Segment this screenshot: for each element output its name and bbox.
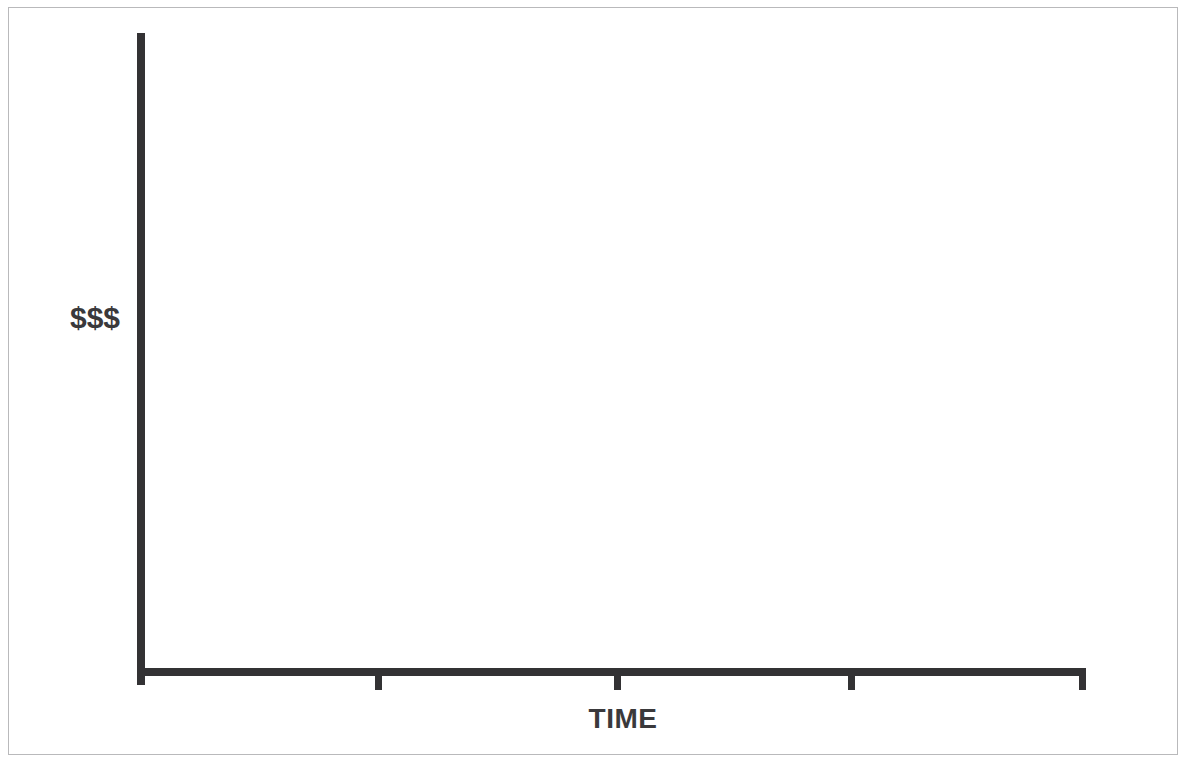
x-axis-label: TIME (523, 702, 723, 736)
x-axis-tick-2 (614, 668, 621, 690)
x-axis-tick-1 (375, 668, 382, 690)
x-axis-tick-3 (848, 668, 855, 690)
x-axis-line (137, 668, 1086, 676)
y-axis-line (137, 33, 145, 685)
x-axis-tick-end (1079, 668, 1086, 690)
chart-plot-area: $$$ TIME (0, 0, 1190, 766)
y-axis-label: $$$ (58, 299, 132, 337)
chart-page: $$$ TIME (0, 0, 1190, 766)
